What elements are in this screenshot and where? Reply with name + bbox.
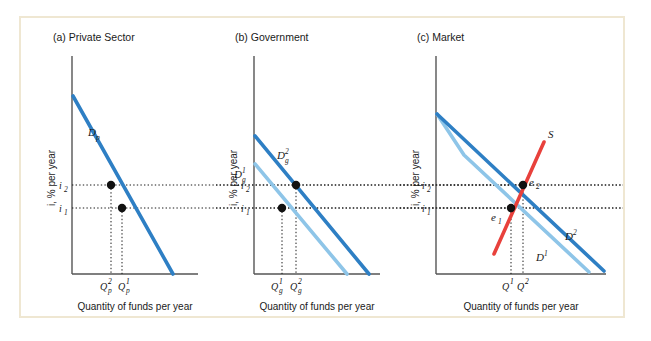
equilibrium-label-e2: e 2 <box>529 176 540 191</box>
curve-label-dg1-sup: 1 <box>242 166 246 175</box>
curve-s-market <box>494 142 544 254</box>
y-tick-i1-sub-private: 1 <box>64 208 68 217</box>
x-tick-q2: Q 2 <box>517 277 529 292</box>
y-axis-label-market: i, % per year <box>410 149 421 206</box>
x-axis-caption-market: Quantity of funds per year <box>463 301 579 312</box>
point-i1-government <box>278 204 286 212</box>
y-tick-i2-sub-market: 2 <box>427 185 431 194</box>
curve-label-dp: D <box>87 126 96 138</box>
curve-label-d1-group: D 1 <box>535 249 548 263</box>
y-tick-i1-base-market: i <box>422 203 425 214</box>
x-tick-qp2-base: Q <box>100 281 108 292</box>
curve-dg1 <box>255 164 347 274</box>
x-tick-qg1-sup: 1 <box>279 277 283 286</box>
curve-label-dg1: D <box>233 168 242 180</box>
curve-dg2 <box>255 136 369 274</box>
equilibrium-label-e1: e 1 <box>491 211 502 226</box>
x-tick-qp1-sup: 1 <box>126 277 130 286</box>
equilibrium-e2-base: e <box>529 176 534 188</box>
y-tick-i1-base-gov: i <box>241 203 244 214</box>
y-tick-i1-market: i 1 <box>422 203 431 217</box>
figure-frame: (a) Private Sector i, % per year D p <box>19 16 625 318</box>
x-tick-qp2-sup: 2 <box>108 277 112 286</box>
equilibrium-e1-base: e <box>491 211 496 223</box>
x-tick-q1-base: Q <box>502 281 510 292</box>
x-tick-q2-base: Q <box>517 281 525 292</box>
panel-title-private-sector: (a) Private Sector <box>53 31 135 43</box>
panel-title-government: (b) Government <box>235 31 309 43</box>
y-tick-i2-sub-gov: 2 <box>246 185 250 194</box>
x-tick-qg1-base: Q <box>271 281 279 292</box>
curve-label-d1: D <box>535 251 544 263</box>
equilibrium-e1-sub: 1 <box>498 217 502 226</box>
curve-label-dg2: D <box>276 149 285 161</box>
x-axis-caption-government: Quantity of funds per year <box>259 301 375 312</box>
point-i2-government <box>292 181 300 189</box>
panel-title-market: (c) Market <box>417 31 464 43</box>
y-tick-i2-sub-private: 2 <box>64 185 68 194</box>
curve-label-s: S <box>548 128 554 140</box>
y-tick-i1-government: i 1 <box>241 203 250 217</box>
x-tick-qg2-sup: 2 <box>298 277 302 286</box>
curve-dp <box>73 96 173 274</box>
curve-label-dp-sub: p <box>95 133 100 142</box>
curve-label-d2-sup: 2 <box>573 228 577 237</box>
y-tick-i2-base-private: i <box>59 180 62 191</box>
x-tick-qg2: Q g 2 <box>290 277 302 295</box>
x-tick-qg1: Q g 1 <box>271 277 283 295</box>
y-axis-label-private-sector: i, % per year <box>46 149 57 206</box>
x-axis-caption-private: Quantity of funds per year <box>77 301 193 312</box>
point-i2-private <box>107 181 115 189</box>
curve-label-d1-sup: 1 <box>544 249 548 258</box>
economics-three-panel-figure: (a) Private Sector i, % per year D p <box>21 18 623 316</box>
x-tick-qg2-base: Q <box>290 281 298 292</box>
curve-label-d2-group: D 2 <box>564 228 577 242</box>
point-i1-private <box>118 204 126 212</box>
figure-root: (a) Private Sector i, % per year D p <box>0 0 651 341</box>
y-tick-i1-sub-gov: 1 <box>246 208 250 217</box>
panel-market: (c) Market i, % per year S D 2 <box>400 31 606 312</box>
curve-label-d2: D <box>564 230 573 242</box>
curve-label-dg2-sub: g <box>285 156 289 165</box>
point-e1-market <box>507 204 515 212</box>
x-tick-qp1: Q p 1 <box>118 277 130 295</box>
y-tick-i2-market: i 2 <box>422 180 431 194</box>
x-tick-qg1-sub: g <box>279 286 283 295</box>
y-tick-i2-base-gov: i <box>241 180 244 191</box>
curve-label-dg2-sup: 2 <box>285 147 289 156</box>
x-tick-qp1-base: Q <box>118 281 126 292</box>
curve-label-dp-group: D p <box>87 126 100 142</box>
x-tick-q1: Q 1 <box>502 277 514 292</box>
x-tick-q1-sup: 1 <box>510 277 514 286</box>
x-tick-q2-sup: 2 <box>525 277 529 286</box>
y-tick-i2-private: i 2 <box>59 180 68 194</box>
y-tick-i1-base-private: i <box>59 203 62 214</box>
x-tick-qp2-sub: p <box>107 286 112 295</box>
y-tick-i1-sub-market: 1 <box>427 208 431 217</box>
y-tick-i1-private: i 1 <box>59 203 68 217</box>
y-tick-i2-base-market: i <box>422 180 425 191</box>
x-tick-qg2-sub: g <box>298 286 302 295</box>
point-e2-market <box>519 181 527 189</box>
equilibrium-e2-sub: 2 <box>536 182 540 191</box>
x-tick-qp1-sub: p <box>125 286 130 295</box>
panel-private-sector: (a) Private Sector i, % per year D p <box>46 31 623 312</box>
x-tick-qp2: Q p 2 <box>100 277 112 295</box>
